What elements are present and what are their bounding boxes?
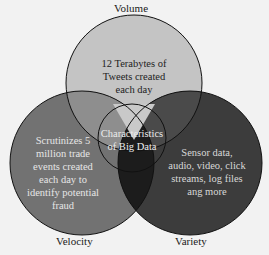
center-text: Characteristics of Big Data bbox=[96, 127, 168, 153]
velocity-text: Scrutinizes 5 million trade events creat… bbox=[23, 134, 103, 212]
volume-text: 12 Terabytes of Tweets created each day bbox=[94, 57, 174, 96]
volume-label: Volume bbox=[114, 2, 148, 14]
variety-label: Variety bbox=[175, 235, 207, 247]
velocity-label: Velocity bbox=[56, 235, 93, 247]
variety-text: Sensor data, audio, video, click streams… bbox=[162, 146, 252, 198]
